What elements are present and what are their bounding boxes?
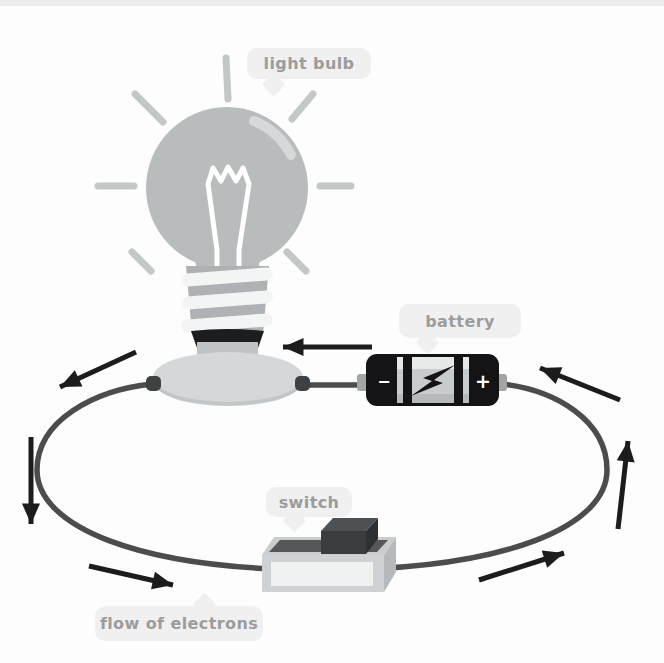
switch-label: switch [266,487,352,517]
flow-label-text: flow of electrons [100,614,258,633]
bulb-screw-base [181,266,274,334]
ray-top-left [135,94,163,122]
switch-illustration [262,518,396,592]
circuit-diagram: − + light bulb [0,0,664,663]
light-bulb-label: light bulb [247,48,371,79]
battery-stripe-right [454,357,463,403]
socket-terminal-left [146,376,161,391]
light-bulb-label-text: light bulb [264,54,355,73]
ray-bottom-right [287,252,306,271]
switch-label-text: switch [279,493,340,512]
bulb-glass [146,107,308,269]
flow-arrow-bottom-right [479,553,564,580]
ray-bottom-left [132,252,151,271]
battery-illustration: − + [357,354,507,406]
flow-arrow-top-left [60,352,136,387]
socket-terminal-right [295,376,310,391]
battery-label-text: battery [425,312,495,331]
switch-front-panel [271,562,373,586]
circuit-diagram-canvas: − + [0,0,664,663]
battery-label: battery [399,304,521,338]
light-bulb-illustration [146,107,308,350]
flow-arrow-bottom-left [89,566,173,585]
ray-top-right [292,94,313,119]
battery-positive-label: + [475,370,491,392]
socket-base-top [153,352,303,402]
bulb-socket [146,342,310,406]
flow-arrow-right [618,441,628,529]
battery-stripe-left [403,357,412,403]
switch-button-front [321,531,366,554]
ray-top [226,58,228,99]
battery-negative-label: − [377,372,390,391]
switch-button [321,518,378,554]
flow-of-electrons-label: flow of electrons [95,606,263,641]
